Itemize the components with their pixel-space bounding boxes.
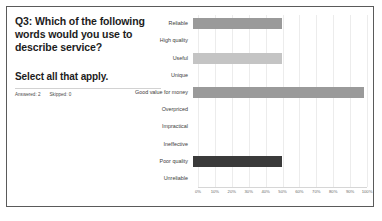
answered-count: Answered: 2 — [15, 92, 41, 98]
tick-label: 0% — [195, 189, 201, 195]
chart-row: Good value for money — [119, 84, 367, 101]
chart-rows: ReliableHigh qualityUsefulUniqueGood val… — [119, 15, 367, 187]
chart-row: Poor quality — [119, 153, 367, 170]
bar-track — [193, 153, 367, 170]
tick-label: 30% — [244, 189, 252, 195]
category-label: Ineffective — [119, 141, 193, 148]
category-label: Unreliable — [119, 175, 193, 182]
x-axis-ticks: 0%10%20%30%40%50%60%70%80%90%100% — [198, 189, 367, 199]
survey-question-card: Q3: Which of the following words would y… — [6, 6, 374, 207]
tick-label: 10% — [211, 189, 219, 195]
bar-track — [193, 101, 367, 118]
category-label: Overpriced — [119, 106, 193, 113]
bar-track — [193, 32, 367, 49]
bar-fill — [193, 53, 282, 64]
chart-row: Overpriced — [119, 101, 367, 118]
bar-track — [193, 118, 367, 135]
chart-row: High quality — [119, 32, 367, 49]
chart-row: Reliable — [119, 15, 367, 32]
bar-track — [193, 135, 367, 152]
category-label: Unique — [119, 72, 193, 79]
tick-label: 40% — [261, 189, 269, 195]
axis-baseline — [198, 187, 367, 188]
bar-track — [193, 170, 367, 187]
chart-row: Unreliable — [119, 170, 367, 187]
skipped-count: Skipped: 0 — [50, 92, 72, 98]
category-label: Reliable — [119, 20, 193, 27]
category-label: Impractical — [119, 123, 193, 130]
bar-fill — [193, 18, 282, 29]
tick-label: 90% — [346, 189, 354, 195]
category-label: High quality — [119, 37, 193, 44]
bar-track — [193, 49, 367, 66]
bar-track — [193, 84, 367, 101]
chart-row: Impractical — [119, 118, 367, 135]
tick-label: 20% — [228, 189, 236, 195]
category-label: Good value for money — [119, 89, 193, 96]
category-label: Poor quality — [119, 158, 193, 165]
bar-fill — [193, 156, 282, 167]
chart-row: Ineffective — [119, 135, 367, 152]
bar-track — [193, 67, 367, 84]
chart-row: Unique — [119, 67, 367, 84]
tick-label: 80% — [329, 189, 337, 195]
tick-label: 60% — [295, 189, 303, 195]
tick-label: 100% — [362, 189, 373, 195]
category-label: Useful — [119, 55, 193, 62]
bar-fill — [193, 87, 364, 98]
gridline — [367, 15, 368, 187]
response-bar-chart: ReliableHigh qualityUsefulUniqueGood val… — [119, 15, 367, 200]
bar-track — [193, 15, 367, 32]
tick-label: 70% — [312, 189, 320, 195]
tick-label: 50% — [278, 189, 286, 195]
chart-row: Useful — [119, 49, 367, 66]
